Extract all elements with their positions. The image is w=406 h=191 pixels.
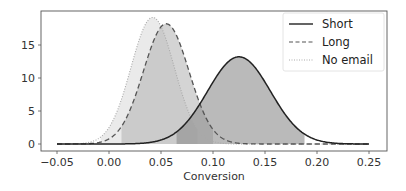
x-axis-label: Conversion <box>183 170 245 183</box>
x-tick-label: 0.00 <box>97 156 122 169</box>
y-tick-label: 5 <box>28 105 35 118</box>
x-tick-label: 0.20 <box>305 156 330 169</box>
legend-label-no-email: No email <box>322 53 373 67</box>
y-tick-label: 10 <box>21 72 35 85</box>
y-axis: 051015 <box>21 39 41 151</box>
legend: Short Long No email <box>283 13 384 71</box>
x-tick-label: 0.10 <box>201 156 226 169</box>
x-tick-label: 0.05 <box>149 156 174 169</box>
x-tick-label: 0.15 <box>253 156 278 169</box>
y-tick-label: 15 <box>21 39 35 52</box>
legend-label-short: Short <box>322 17 353 31</box>
x-tick-label: 0.25 <box>357 156 382 169</box>
shaded-regions <box>101 17 305 144</box>
x-axis: −0.050.000.050.100.150.200.25 <box>40 151 381 169</box>
legend-label-long: Long <box>322 35 350 49</box>
y-tick-label: 0 <box>28 138 35 151</box>
x-tick-label: −0.05 <box>40 156 74 169</box>
conversion-density-chart: −0.050.000.050.100.150.200.25 051015 Con… <box>0 0 406 191</box>
